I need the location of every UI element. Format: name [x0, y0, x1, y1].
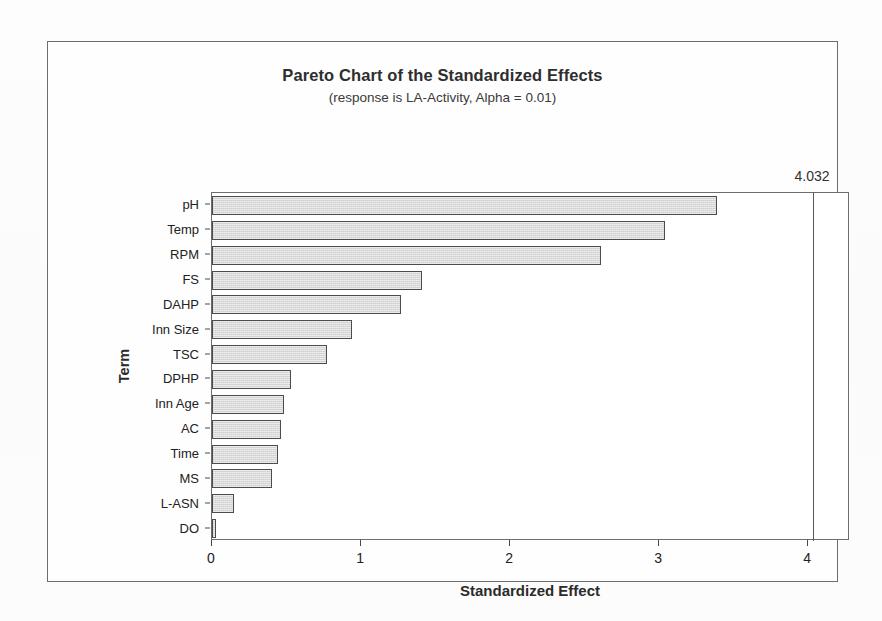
bar-fill: [212, 196, 717, 215]
y-tick-mark: [205, 229, 210, 230]
y-tick-label-do: DO: [180, 520, 200, 535]
y-tick-mark: [205, 279, 210, 280]
y-tick-label-inn-age: Inn Age: [155, 396, 199, 411]
y-tick-label-dahp: DAHP: [163, 296, 199, 311]
plot-area: [211, 192, 849, 540]
y-tick-mark: [205, 353, 210, 354]
reference-line-label: 4.032: [795, 168, 830, 184]
bar-dahp: [212, 295, 401, 314]
x-tick-label-3: 3: [654, 550, 662, 566]
x-tick-mark: [658, 540, 659, 546]
y-tick-mark: [205, 328, 210, 329]
bar-fill: [212, 345, 327, 364]
y-tick-label-ms: MS: [180, 470, 200, 485]
y-tick-label-ph: pH: [182, 197, 199, 212]
bar-tsc: [212, 345, 327, 364]
bar-fill: [212, 221, 665, 240]
bar-fill: [212, 494, 234, 513]
bar-fill: [212, 246, 601, 265]
y-tick-mark: [205, 453, 210, 454]
bar-fill: [212, 370, 291, 389]
bar-fs: [212, 271, 422, 290]
bar-do: [212, 519, 216, 538]
bar-temp: [212, 221, 665, 240]
y-tick-mark: [205, 403, 210, 404]
x-tick-label-4: 4: [803, 550, 811, 566]
x-tick-mark: [211, 540, 212, 546]
y-tick-label-temp: Temp: [167, 222, 199, 237]
bar-fill: [212, 420, 281, 439]
x-tick-label-1: 1: [356, 550, 364, 566]
bar-l-asn: [212, 494, 234, 513]
y-axis-title: Term: [116, 349, 132, 383]
y-tick-label-time: Time: [171, 446, 199, 461]
x-axis-title: Standardized Effect: [211, 582, 849, 599]
bar-ac: [212, 420, 281, 439]
bar-dphp: [212, 370, 291, 389]
reference-line: [813, 192, 814, 541]
bar-fill: [212, 271, 422, 290]
y-tick-mark: [205, 254, 210, 255]
y-tick-mark: [205, 303, 210, 304]
bar-inn-size: [212, 320, 352, 339]
x-tick-label-2: 2: [505, 550, 513, 566]
y-tick-label-ac: AC: [181, 421, 199, 436]
chart-outer-frame: Pareto Chart of the Standardized Effects…: [47, 41, 838, 582]
y-tick-label-inn-size: Inn Size: [152, 321, 199, 336]
bar-fill: [212, 445, 278, 464]
y-tick-mark: [205, 204, 210, 205]
y-tick-label-l-asn: L-ASN: [161, 495, 199, 510]
bar-fill: [212, 295, 401, 314]
chart-subtitle: (response is LA-Activity, Alpha = 0.01): [48, 90, 837, 105]
y-tick-label-fs: FS: [182, 272, 199, 287]
y-tick-label-dphp: DPHP: [163, 371, 199, 386]
bar-time: [212, 445, 278, 464]
bar-ms: [212, 469, 272, 488]
bar-fill: [212, 320, 352, 339]
y-tick-label-rpm: RPM: [170, 247, 199, 262]
bar-rpm: [212, 246, 601, 265]
y-tick-label-tsc: TSC: [173, 346, 199, 361]
x-tick-mark: [509, 540, 510, 546]
bar-inn-age: [212, 395, 284, 414]
y-tick-mark: [205, 428, 210, 429]
page-title: Pareto Chart of the Standardized Effects: [48, 66, 837, 85]
bar-fill: [212, 519, 216, 538]
y-tick-mark: [205, 502, 210, 503]
y-tick-mark: [205, 378, 210, 379]
y-tick-mark: [205, 527, 210, 528]
x-tick-label-0: 0: [207, 550, 215, 566]
bar-fill: [212, 395, 284, 414]
bar-fill: [212, 469, 272, 488]
bar-ph: [212, 196, 717, 215]
x-tick-mark: [360, 540, 361, 546]
y-tick-mark: [205, 477, 210, 478]
x-tick-mark: [807, 540, 808, 546]
